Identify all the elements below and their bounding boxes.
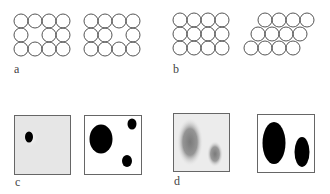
panel-b-right-lattice — [244, 13, 314, 55]
panel-label-c: c — [15, 175, 20, 190]
panel-c-grayscale-image — [15, 116, 71, 175]
panel-d-binary-image — [258, 115, 315, 173]
panel-label-a: a — [14, 62, 19, 77]
figure-canvas — [0, 0, 330, 194]
panel-a-right-lattice — [84, 14, 140, 56]
panel-d-blurred-image — [174, 114, 230, 172]
panel-b-left-lattice — [173, 13, 229, 55]
panel-label-b: b — [173, 62, 179, 77]
panel-a-left-lattice — [14, 14, 70, 56]
panel-label-d: d — [174, 174, 180, 189]
panel-c-binary-image — [85, 116, 142, 175]
